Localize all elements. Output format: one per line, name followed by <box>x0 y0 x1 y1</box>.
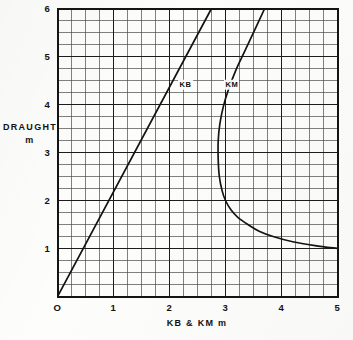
series-label-text: KB <box>180 80 192 89</box>
y-tick-label: 2 <box>45 195 51 206</box>
x-tick-label: 5 <box>335 302 341 313</box>
y-tick-label: 5 <box>45 51 51 62</box>
y-tick-label: 4 <box>45 99 51 110</box>
y-axis-title-units: m <box>25 135 34 145</box>
x-tick-label: 4 <box>279 302 285 313</box>
series-label-kb: KB <box>178 80 193 90</box>
x-tick-label: 3 <box>223 302 229 313</box>
y-tick-label: 6 <box>45 3 51 14</box>
x-axis-tick-labels: O12345 <box>54 302 341 313</box>
x-tick-label: O <box>54 302 62 313</box>
graph-figure: O12345 123456 KBKM KB & KM m DRAUGHT m <box>0 0 353 340</box>
x-tick-label: 1 <box>111 302 117 313</box>
y-tick-label: 3 <box>45 147 51 158</box>
series-inline-labels: KBKM <box>178 80 239 90</box>
series-label-text: KM <box>226 80 239 89</box>
y-tick-label: 1 <box>45 243 51 254</box>
x-tick-label: 2 <box>167 302 173 313</box>
chart-canvas: O12345 123456 KBKM KB & KM m DRAUGHT m <box>0 0 353 340</box>
x-axis-title: KB & KM m <box>167 318 228 328</box>
series-label-km: KM <box>224 80 239 90</box>
y-axis-title: DRAUGHT <box>3 122 57 132</box>
